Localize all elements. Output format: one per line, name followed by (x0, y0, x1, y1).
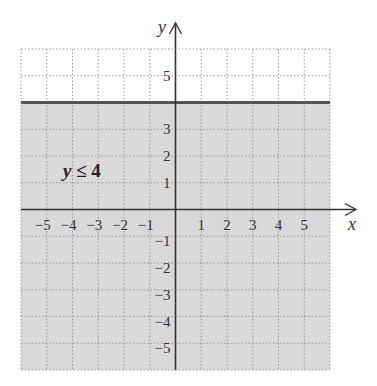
x-axis-label: x (347, 214, 356, 234)
y-tick-label: 2 (163, 148, 171, 164)
x-tick-label: −3 (86, 217, 102, 233)
x-tick-label: −4 (61, 217, 77, 233)
y-tick-label: 3 (163, 121, 171, 137)
inequality-graph: −5−4−3−2−1123455321−1−2−3−4−5 x y y ≤ 4 (0, 0, 377, 386)
x-tick-label: 2 (223, 217, 231, 233)
y-tick-label: −3 (155, 287, 171, 303)
y-tick-label: 5 (163, 68, 171, 84)
y-tick-label: 1 (163, 175, 171, 191)
x-tick-label: 3 (249, 217, 257, 233)
x-tick-label: 1 (198, 217, 206, 233)
inequality-annotation: y ≤ 4 (61, 160, 101, 181)
y-tick-label: −2 (155, 260, 171, 276)
x-tick-label: 5 (301, 217, 309, 233)
annotation-variable: y (61, 160, 72, 181)
plot-canvas: −5−4−3−2−1123455321−1−2−3−4−5 x y y ≤ 4 (0, 0, 377, 386)
y-tick-label: −1 (155, 233, 171, 249)
x-tick-label: −1 (138, 217, 154, 233)
x-tick-label: −5 (35, 217, 51, 233)
x-tick-label: 4 (275, 217, 283, 233)
y-tick-label: −5 (155, 340, 171, 356)
x-tick-label: −2 (112, 217, 128, 233)
y-tick-label: −4 (155, 314, 171, 330)
annotation-relation: ≤ 4 (71, 160, 101, 181)
y-axis-label: y (156, 17, 166, 37)
